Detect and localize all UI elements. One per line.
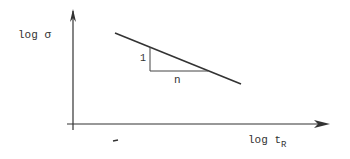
x-axis-label: log tR <box>248 134 286 146</box>
diagram: log σ 1 n log tR <box>0 0 350 159</box>
y-axis-label: log σ <box>18 29 51 41</box>
slope-rise-label: 1 <box>140 53 146 64</box>
x-axis-label-subscript: R <box>281 140 286 150</box>
tick-mark <box>113 140 118 141</box>
slope-run-label: n <box>174 74 181 86</box>
x-axis-label-main: log t <box>248 134 281 146</box>
